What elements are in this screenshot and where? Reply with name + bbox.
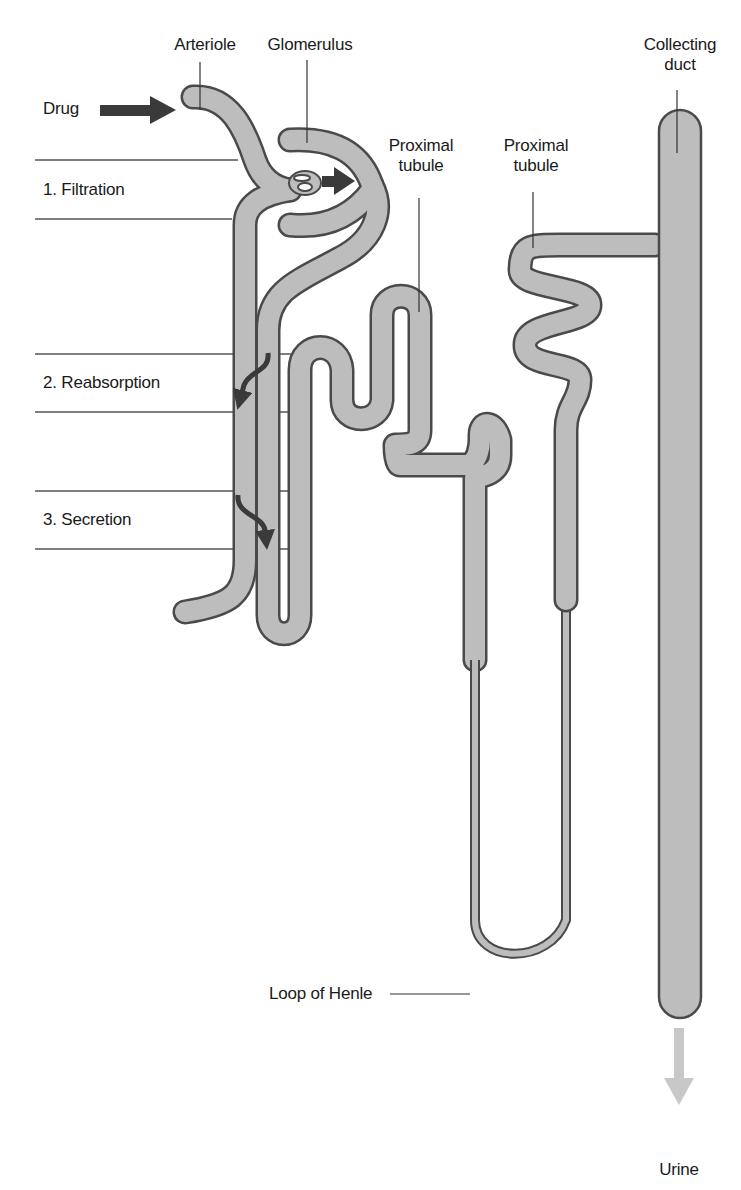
urine-label: Urine (659, 1160, 699, 1180)
proximal-tubule-label-1: Proximal tubule (389, 136, 454, 176)
collecting-duct (659, 110, 701, 1018)
collecting-duct-label: Collecting duct (644, 35, 717, 75)
loop-of-henle-label: Loop of Henle (269, 984, 372, 1004)
arteriole-label: Arteriole (174, 35, 236, 55)
distal-tubule (520, 245, 655, 600)
reabsorption-label: 2. Reabsorption (43, 373, 160, 393)
filtration-arrow-icon (322, 167, 355, 195)
drug-arrow-icon (100, 96, 176, 124)
filtration-label: 1. Filtration (43, 180, 125, 200)
nephron-diagram (0, 0, 741, 1190)
loop-of-henle (475, 600, 566, 954)
urine-arrow-icon (664, 1028, 694, 1105)
glomerulus-coil (289, 171, 321, 195)
drug-label: Drug (43, 99, 79, 119)
proximal-tubule-label-2: Proximal tubule (504, 136, 569, 176)
glomerulus-label: Glomerulus (268, 35, 353, 55)
secretion-label: 3. Secretion (43, 510, 131, 530)
